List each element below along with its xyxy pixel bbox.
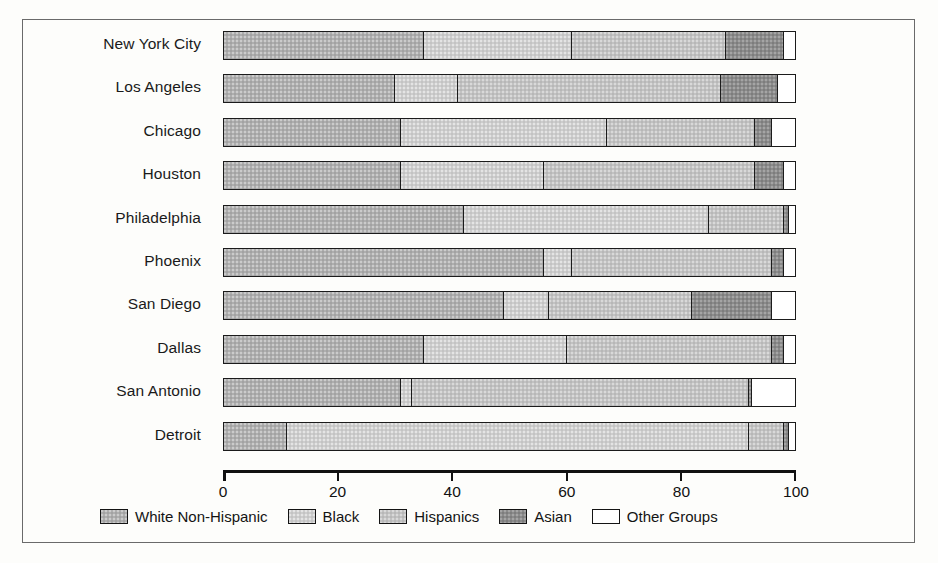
legend-label: Other Groups (627, 508, 718, 525)
bar-row (223, 335, 796, 364)
x-axis-tick (337, 472, 339, 481)
bar-segment-hispanics (549, 292, 692, 319)
x-axis-tick (566, 472, 568, 481)
bar-segment-asian (726, 32, 783, 59)
bar-segment-other (789, 206, 795, 233)
category-label: New York City (103, 35, 201, 53)
bar-segment-hispanics (572, 32, 726, 59)
legend-swatch-other (592, 509, 620, 524)
bar-segment-other (772, 119, 795, 146)
bar-segment-asian (772, 336, 783, 363)
category-label: San Antonio (116, 382, 201, 400)
x-axis-right-cap (794, 470, 797, 481)
bar-segment-other (784, 32, 795, 59)
bar-segment-asian (721, 75, 778, 102)
bar-segment-white-nh (224, 249, 544, 276)
bar-segment-asian (755, 162, 784, 189)
x-axis-tick-label: 100 (783, 483, 809, 501)
bar-segment-hispanics (607, 119, 755, 146)
category-label: Los Angeles (115, 78, 201, 96)
bar-row (223, 291, 796, 320)
bar-segment-asian (755, 119, 772, 146)
category-label: Chicago (143, 122, 201, 140)
bar-segment-hispanics (544, 162, 755, 189)
bar-segment-white-nh (224, 292, 504, 319)
x-axis-tick-label: 20 (329, 483, 346, 501)
legend-item[interactable]: White Non-Hispanic (100, 508, 268, 525)
bar-segment-other (772, 292, 795, 319)
bar-segment-black (504, 292, 550, 319)
x-axis-line (223, 470, 796, 473)
bar-row (223, 248, 796, 277)
bar-segment-black (424, 32, 572, 59)
bar-segment-other (752, 379, 795, 406)
bar-segment-white-nh (224, 379, 401, 406)
bar-segment-white-nh (224, 162, 401, 189)
x-axis-tick-label: 0 (219, 483, 228, 501)
bar-segment-black (287, 423, 750, 450)
category-label: San Diego (128, 295, 201, 313)
bar-row (223, 118, 796, 147)
bar-segment-white-nh (224, 206, 464, 233)
legend-item[interactable]: Asian (499, 508, 572, 525)
bar-segment-asian (692, 292, 772, 319)
bar-segment-white-nh (224, 423, 287, 450)
legend-label: Hispanics (414, 508, 479, 525)
bar-segment-asian (772, 249, 783, 276)
legend-item[interactable]: Black (288, 508, 360, 525)
bar-segment-black (401, 119, 607, 146)
bar-segment-white-nh (224, 32, 424, 59)
bar-segment-black (401, 379, 412, 406)
bar-segment-hispanics (572, 249, 772, 276)
bar-segment-white-nh (224, 75, 395, 102)
category-axis-labels: New York CityLos AngelesChicagoHoustonPh… (0, 31, 213, 465)
x-axis-tick-label: 80 (673, 483, 690, 501)
bar-segment-hispanics (709, 206, 783, 233)
bar-row (223, 161, 796, 190)
bar-segment-black (401, 162, 544, 189)
bar-segment-other (784, 249, 795, 276)
legend-label: Asian (534, 508, 572, 525)
bar-row (223, 378, 796, 407)
bar-row (223, 31, 796, 60)
bar-segment-black (464, 206, 710, 233)
x-axis-left-cap (223, 470, 226, 481)
chart-figure: New York CityLos AngelesChicagoHoustonPh… (0, 0, 938, 563)
bar-segment-hispanics (749, 423, 783, 450)
bar-segment-other (784, 162, 795, 189)
bar-segment-hispanics (412, 379, 749, 406)
chart-legend: White Non-HispanicBlackHispanicsAsianOth… (100, 508, 718, 525)
legend-label: White Non-Hispanic (135, 508, 268, 525)
legend-item[interactable]: Hispanics (379, 508, 479, 525)
bar-segment-hispanics (458, 75, 721, 102)
bar-segment-other (778, 75, 795, 102)
bar-segment-other (789, 423, 795, 450)
category-label: Philadelphia (115, 209, 201, 227)
bar-segment-black (544, 249, 573, 276)
bar-segment-white-nh (224, 119, 401, 146)
bar-row (223, 205, 796, 234)
stacked-bar-plot-area (223, 31, 796, 465)
category-label: Phoenix (144, 252, 201, 270)
bar-segment-white-nh (224, 336, 424, 363)
bar-row (223, 74, 796, 103)
bar-row (223, 422, 796, 451)
category-label: Houston (143, 165, 201, 183)
x-axis-tick-label: 60 (558, 483, 575, 501)
category-label: Dallas (157, 339, 201, 357)
x-axis-tick-label: 40 (444, 483, 461, 501)
legend-swatch-asian (499, 509, 527, 524)
x-axis-tick (680, 472, 682, 481)
legend-label: Black (323, 508, 360, 525)
legend-item[interactable]: Other Groups (592, 508, 718, 525)
legend-swatch-hispanics (379, 509, 407, 524)
bar-segment-other (784, 336, 795, 363)
bar-segment-black (424, 336, 567, 363)
legend-swatch-black (288, 509, 316, 524)
x-axis-tick (451, 472, 453, 481)
bar-segment-hispanics (567, 336, 773, 363)
legend-swatch-white-nh (100, 509, 128, 524)
category-label: Detroit (155, 426, 201, 444)
bar-segment-black (395, 75, 458, 102)
